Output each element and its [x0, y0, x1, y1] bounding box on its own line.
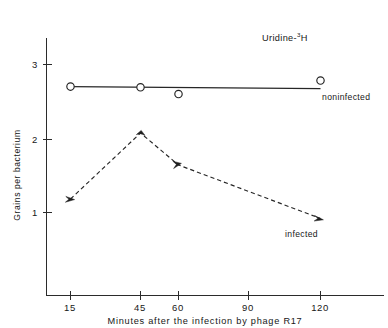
infected-point-60 [173, 161, 182, 168]
chart-title: Uridine-3H [262, 31, 308, 43]
y-tick-label-2: 2 [32, 134, 38, 145]
x-tick-label-90: 90 [242, 302, 254, 313]
x-axis-title: Minutes after the infection by phage R17 [108, 316, 303, 326]
x-tick-labels: 15 45 60 90 120 [64, 302, 329, 313]
x-tick-label-60: 60 [172, 302, 184, 313]
chart-canvas: 3 2 1 15 45 60 90 120 [0, 0, 388, 328]
y-tick-marks [43, 65, 52, 213]
noninfected-point-45 [137, 84, 144, 91]
y-tick-labels: 3 2 1 [32, 59, 38, 218]
axes-group [47, 38, 385, 296]
infected-label: infected [285, 229, 318, 239]
figure-container: 3 2 1 15 45 60 90 120 [0, 0, 388, 328]
infected-point-120 [314, 216, 323, 221]
infected-line [71, 133, 321, 219]
noninfected-point-15 [67, 83, 74, 90]
y-tick-label-1: 1 [32, 207, 38, 218]
noninfected-point-120 [317, 77, 324, 84]
y-tick-label-3: 3 [32, 59, 38, 70]
x-tick-label-45: 45 [134, 302, 146, 313]
series-infected [65, 130, 323, 221]
svg-text:Uridine-3H: Uridine-3H [262, 31, 308, 43]
x-tick-label-120: 120 [311, 302, 329, 313]
noninfected-line [71, 87, 321, 89]
noninfected-label: noninfected [322, 92, 370, 102]
y-axis-title: Grains per bacterium [12, 129, 22, 220]
chart-title-element: H [301, 33, 308, 43]
infected-point-15 [65, 196, 74, 202]
chart-title-base: Uridine- [262, 33, 297, 43]
x-tick-label-15: 15 [64, 302, 76, 313]
noninfected-point-60 [175, 90, 182, 97]
infected-point-45 [136, 130, 145, 135]
series-noninfected [67, 77, 324, 98]
